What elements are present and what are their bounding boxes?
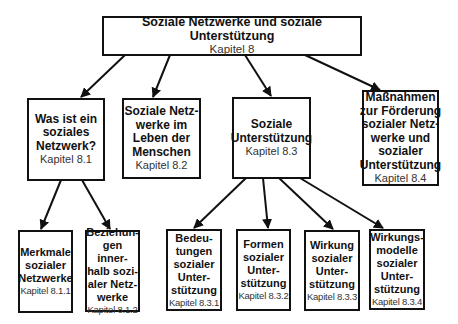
arrow-8-to-8.3	[245, 55, 271, 96]
node-chapter: Kapitel 8.4	[375, 172, 427, 185]
node-title: Maßnahmen zur Förderung sozialer Netz- w…	[360, 91, 441, 172]
arrow-8-to-8.2	[153, 55, 170, 97]
node-kapitel-8: Soziale Netzwerke und soziale Unterstütz…	[102, 16, 362, 56]
node-kapitel-8-4: Maßnahmen zur Förderung sozialer Netz- w…	[362, 90, 439, 186]
node-kapitel-8-3: Soziale Unterstützung Kapitel 8.3	[232, 97, 311, 179]
node-chapter: Kapitel 8.2	[136, 159, 188, 172]
node-title: Formen sozialer Unter- stützung	[241, 238, 287, 290]
node-title: Bedeu- tungen sozialer Unter- stützung	[171, 232, 217, 297]
node-title: Soziale Netzwerke und soziale Unterstütz…	[104, 16, 360, 43]
node-chapter: Kapitel 8	[210, 43, 255, 56]
node-kapitel-8-1-1: Merkmale sozialer Netzwerke Kapitel 8.1.…	[18, 230, 73, 313]
node-title: Was ist ein soziales Netzwerk?	[35, 113, 97, 154]
arrow-8.1-to-8.1.1	[41, 180, 61, 229]
node-kapitel-8-3-2: Formen sozialer Unter- stützung Kapitel …	[236, 229, 291, 311]
node-chapter: Kapitel 8.3.3	[307, 291, 357, 303]
node-title: Merkmale sozialer Netzwerke	[18, 246, 72, 285]
node-title: Wirkungs- modelle sozialer Unter- stützu…	[370, 231, 424, 296]
node-chapter: Kapitel 8.3.1	[169, 297, 219, 309]
node-chapter: Kapitel 8.1.1	[20, 285, 70, 297]
node-chapter: Kapitel 8.1.2	[87, 304, 137, 316]
node-kapitel-8-1-2: Beziehun- gen inner- halb sozi- aler Net…	[85, 230, 140, 312]
node-chapter: Kapitel 8.3	[246, 145, 298, 158]
node-title: Soziale Unterstützung	[231, 118, 312, 145]
node-title: Soziale Netz- werke im Leben der Mensche…	[124, 105, 198, 159]
node-title: Beziehun- gen inner- halb sozi- aler Net…	[86, 226, 139, 304]
arrow-8.3-to-8.3.2	[263, 178, 268, 228]
arrow-8-to-8.1	[81, 55, 125, 97]
node-chapter: Kapitel 8.1	[40, 153, 92, 166]
node-chapter: Kapitel 8.3.4	[372, 296, 422, 308]
node-kapitel-8-2: Soziale Netz- werke im Leben der Mensche…	[122, 98, 201, 179]
node-title: Wirkung sozialer Unter- stützung	[309, 239, 355, 291]
arrow-8-to-8.4	[305, 55, 380, 90]
arrow-8.1-to-8.1.2	[82, 180, 110, 229]
node-kapitel-8-3-4: Wirkungs- modelle sozialer Unter- stützu…	[369, 229, 425, 310]
node-chapter: Kapitel 8.3.2	[238, 290, 288, 302]
node-kapitel-8-3-3: Wirkung sozialer Unter- stützung Kapitel…	[304, 230, 360, 311]
node-kapitel-8-3-1: Bedeu- tungen sozialer Unter- stützung K…	[166, 229, 222, 311]
arrow-8.3-to-8.3.3	[279, 178, 333, 229]
arrow-8.3-to-8.3.1	[194, 178, 246, 228]
node-kapitel-8-1: Was ist ein soziales Netzwerk? Kapitel 8…	[27, 98, 105, 181]
